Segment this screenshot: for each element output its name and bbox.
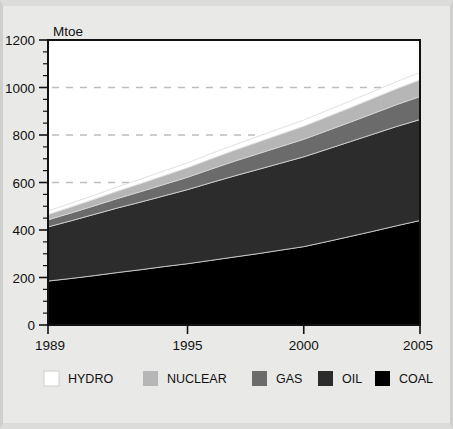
stacked-area-chart: 0200400600800100012001989199520002005Mto…	[0, 0, 453, 429]
figure-background: 0200400600800100012001989199520002005Mto…	[0, 0, 453, 429]
y-axis-tick-label: 800	[12, 128, 35, 143]
legend-label: NUCLEAR	[167, 372, 227, 386]
legend-swatch	[375, 371, 390, 386]
legend-swatch	[252, 371, 267, 386]
legend-label: GAS	[276, 372, 302, 386]
x-axis-tick-label: 1995	[172, 338, 202, 353]
x-axis-tick-label: 2005	[403, 338, 433, 353]
legend-item-oil: OIL	[318, 371, 362, 386]
legend-item-coal: COAL	[375, 371, 433, 386]
x-axis-tick-label: 2000	[289, 338, 319, 353]
legend-label: HYDRO	[68, 372, 113, 386]
legend-label: COAL	[399, 372, 433, 386]
legend-item-hydro: HYDRO	[44, 371, 113, 386]
y-axis-unit-label: Mtoe	[53, 24, 83, 39]
y-axis-tick-label: 1200	[5, 33, 35, 48]
x-axis-tick-label: 1989	[35, 338, 65, 353]
y-axis-tick-label: 400	[12, 223, 35, 238]
legend-swatch	[318, 371, 333, 386]
legend-swatch	[143, 371, 158, 386]
y-axis-tick-label: 0	[27, 318, 35, 333]
y-axis-tick-label: 1000	[5, 81, 35, 96]
legend-item-nuclear: NUCLEAR	[143, 371, 227, 386]
y-axis-tick-label: 200	[12, 271, 35, 286]
legend-item-gas: GAS	[252, 371, 302, 386]
legend-swatch	[44, 371, 59, 386]
chart-canvas: 0200400600800100012001989199520002005Mto…	[0, 0, 453, 429]
legend-label: OIL	[342, 372, 362, 386]
y-axis-tick-label: 600	[12, 176, 35, 191]
